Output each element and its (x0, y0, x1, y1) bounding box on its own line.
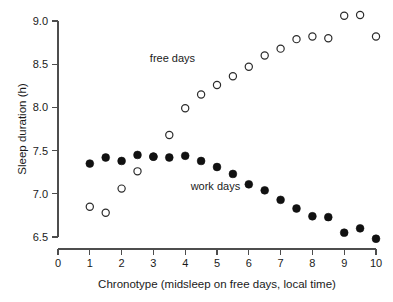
data-point-free-days (245, 63, 252, 70)
data-point-free-days (102, 209, 109, 216)
data-point-work-days (229, 170, 237, 178)
y-tick-group: 6.57.07.58.08.59.0 (33, 15, 58, 243)
series-annotation-free-days: free days (150, 52, 196, 64)
y-tick-label: 8.0 (33, 101, 48, 113)
data-point-free-days (166, 131, 173, 138)
data-point-work-days (134, 151, 142, 159)
data-point-work-days (356, 224, 364, 232)
data-point-work-days (261, 186, 269, 194)
data-point-free-days (309, 33, 316, 40)
data-point-work-days (372, 235, 380, 243)
data-point-work-days (340, 229, 348, 237)
y-tick-label: 8.5 (33, 58, 48, 70)
data-point-work-days (86, 160, 94, 168)
data-point-free-days (229, 73, 236, 80)
data-point-work-days (293, 205, 301, 213)
data-point-free-days (182, 105, 189, 112)
plot-area: 6.57.07.58.08.59.0 012345678910 free day… (0, 0, 393, 302)
data-point-free-days (118, 185, 125, 192)
data-point-free-days (341, 12, 348, 19)
series-work-days-points (86, 151, 380, 243)
data-point-free-days (293, 36, 300, 43)
x-tick-label: 6 (246, 257, 252, 269)
y-tick-label: 6.5 (33, 231, 48, 243)
x-tick-label: 3 (150, 257, 156, 269)
data-point-work-days (197, 157, 205, 165)
chart-canvas: 6.57.07.58.08.59.0 012345678910 free day… (0, 0, 393, 302)
y-tick-label: 9.0 (33, 15, 48, 27)
data-point-work-days (309, 212, 317, 220)
data-point-free-days (325, 35, 332, 42)
data-point-free-days (261, 52, 268, 59)
data-point-work-days (181, 152, 189, 160)
data-point-work-days (102, 154, 110, 162)
series-annotation-work-days: work days (190, 180, 241, 192)
data-point-work-days (150, 153, 158, 161)
x-tick-label: 4 (182, 257, 188, 269)
data-point-work-days (277, 196, 285, 204)
data-point-free-days (372, 33, 379, 40)
data-point-free-days (213, 81, 220, 88)
x-tick-label: 8 (309, 257, 315, 269)
x-tick-label: 9 (341, 257, 347, 269)
series-annotations: free dayswork days (150, 52, 241, 192)
x-axis-title: Chronotype (midsleep on free days, local… (98, 278, 336, 290)
y-tick-label: 7.0 (33, 188, 48, 200)
data-point-work-days (165, 154, 173, 162)
x-tick-label: 10 (370, 257, 382, 269)
data-point-free-days (277, 45, 284, 52)
data-point-free-days (86, 203, 93, 210)
data-point-work-days (118, 157, 126, 165)
data-point-free-days (134, 168, 141, 175)
x-tick-group: 012345678910 (55, 249, 382, 269)
x-tick-label: 0 (55, 257, 61, 269)
scatter-chart-figure: 6.57.07.58.08.59.0 012345678910 free day… (0, 0, 393, 302)
data-point-work-days (245, 180, 253, 188)
y-tick-label: 7.5 (33, 145, 48, 157)
data-point-work-days (213, 163, 221, 171)
x-tick-label: 1 (87, 257, 93, 269)
data-point-work-days (324, 213, 332, 221)
data-point-free-days (198, 91, 205, 98)
data-point-free-days (357, 11, 364, 18)
x-tick-label: 2 (119, 257, 125, 269)
y-axis-title: Sleep duration (h) (16, 83, 28, 175)
x-tick-label: 5 (214, 257, 220, 269)
x-tick-label: 7 (278, 257, 284, 269)
